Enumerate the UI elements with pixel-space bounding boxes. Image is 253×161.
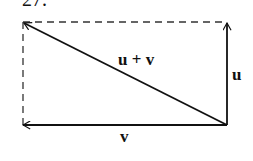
sum-label: u + v [118,50,155,69]
u-label: u [232,65,241,84]
problem-number: 27. [22,0,47,10]
vector-sum-arrow [24,23,227,125]
vector-diagram: 27. u + v u v [0,0,253,161]
v-label: v [120,127,129,146]
